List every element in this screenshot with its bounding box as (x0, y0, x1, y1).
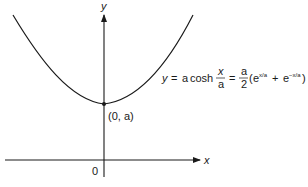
svg-text:+: + (272, 72, 278, 84)
x-axis-label: x (203, 154, 210, 166)
y-axis-label: y (100, 0, 108, 12)
svg-text:2: 2 (241, 78, 247, 90)
svg-text:): ) (302, 72, 306, 84)
svg-text:=: = (171, 72, 177, 84)
svg-text:=: = (229, 72, 235, 84)
svg-text:a: a (218, 78, 225, 90)
svg-text:cosh: cosh (190, 72, 213, 84)
catenary-equation: y = a cosh x a = a 2 ( e x/a + e −x/a ) (161, 65, 306, 90)
catenary-curve (13, 15, 193, 104)
svg-text:a: a (182, 72, 189, 84)
vertex-point (102, 102, 106, 106)
svg-text:−x/a: −x/a (289, 72, 301, 78)
svg-text:x/a: x/a (259, 72, 268, 78)
svg-text:a: a (241, 65, 248, 77)
catenary-diagram: y x 0 (0, a) y = a cosh x a = a 2 ( e x/… (0, 0, 308, 187)
svg-text:x: x (217, 65, 224, 77)
svg-text:y: y (161, 72, 169, 84)
vertex-label: (0, a) (108, 110, 134, 122)
origin-label: 0 (92, 165, 98, 177)
